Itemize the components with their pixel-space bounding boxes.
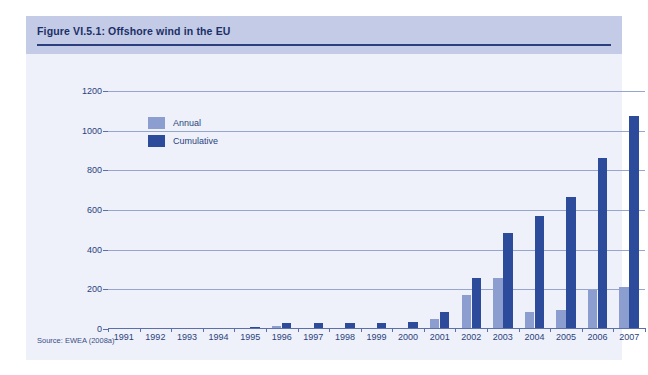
x-axis-tick-mark — [266, 328, 267, 332]
legend-swatch-annual — [148, 117, 165, 129]
y-axis-tick-label: 1200 — [82, 86, 102, 96]
x-axis-tick-mark — [455, 328, 456, 332]
figure-title: Figure VI.5.1: Offshore wind in the EU — [37, 25, 231, 37]
x-axis-tick-label-1993: 1993 — [177, 332, 197, 342]
bar-cumulative-2001 — [440, 312, 450, 329]
x-axis-tick-label-2003: 2003 — [493, 332, 513, 342]
bar-group — [582, 91, 614, 329]
x-axis-tick-label-2002: 2002 — [461, 332, 481, 342]
x-axis-tick-label-1994: 1994 — [209, 332, 229, 342]
figure-container: Figure VI.5.1: Offshore wind in the EU 0… — [26, 16, 622, 360]
bar-group — [613, 91, 645, 329]
x-axis-tick-mark — [613, 328, 614, 332]
bar-cumulative-2002 — [472, 278, 482, 329]
figure-header: Figure VI.5.1: Offshore wind in the EU — [26, 16, 622, 54]
legend-item-cumulative: Cumulative — [148, 133, 218, 148]
y-axis-tick-label: 0 — [97, 324, 102, 334]
bar-group — [108, 91, 140, 329]
bar-group — [550, 91, 582, 329]
y-axis-tick-label: 600 — [87, 205, 102, 215]
bar-cumulative-2003 — [503, 233, 513, 329]
bar-annual-2006 — [588, 290, 598, 329]
bar-group — [266, 91, 298, 329]
bar-cumulative-2007 — [629, 116, 639, 329]
x-axis-tick-mark — [203, 328, 204, 332]
x-axis-tick-label-2000: 2000 — [398, 332, 418, 342]
x-axis-tick-mark — [329, 328, 330, 332]
y-axis-tick-label: 800 — [87, 165, 102, 175]
bar-annual-2005 — [556, 310, 566, 329]
x-axis-tick-label-2006: 2006 — [588, 332, 608, 342]
bar-group — [424, 91, 456, 329]
bar-group — [392, 91, 424, 329]
bar-annual-2004 — [525, 312, 535, 329]
x-axis-tick-mark — [171, 328, 172, 332]
legend-item-annual: Annual — [148, 115, 218, 130]
x-axis-tick-label-1999: 1999 — [366, 332, 386, 342]
bar-group — [234, 91, 266, 329]
bar-group — [455, 91, 487, 329]
x-axis-tick-mark — [361, 328, 362, 332]
x-axis-tick-label-2005: 2005 — [556, 332, 576, 342]
x-axis-tick-mark — [392, 328, 393, 332]
x-axis-tick-label-2001: 2001 — [430, 332, 450, 342]
x-axis-tick-label-2004: 2004 — [524, 332, 544, 342]
x-axis-tick-label-1998: 1998 — [335, 332, 355, 342]
bar-group — [298, 91, 330, 329]
x-axis-tick-mark — [550, 328, 551, 332]
x-axis-tick-mark — [424, 328, 425, 332]
x-axis-tick-label-1992: 1992 — [145, 332, 165, 342]
x-axis-tick-mark — [298, 328, 299, 332]
x-axis-labels: 1991199219931994199519961997199819992000… — [108, 332, 645, 348]
y-axis-tick-label: 400 — [87, 245, 102, 255]
bar-annual-2002 — [462, 295, 472, 329]
bar-group — [361, 91, 393, 329]
x-axis-tick-label-2007: 2007 — [619, 332, 639, 342]
chart-legend: AnnualCumulative — [148, 115, 218, 151]
x-axis-line — [108, 328, 645, 330]
bar-group — [519, 91, 551, 329]
x-axis-tick-label-1995: 1995 — [240, 332, 260, 342]
legend-label-annual: Annual — [173, 118, 201, 128]
x-axis-tick-mark — [519, 328, 520, 332]
bar-annual-2003 — [493, 278, 503, 329]
bar-cumulative-2006 — [598, 158, 608, 329]
bar-group — [329, 91, 361, 329]
x-axis-tick-mark — [234, 328, 235, 332]
y-axis-tick-label: 1000 — [82, 126, 102, 136]
x-axis-tick-mark — [645, 328, 646, 332]
bar-cumulative-2004 — [535, 216, 545, 329]
bar-group — [487, 91, 519, 329]
bar-annual-2007 — [619, 287, 629, 329]
x-axis-tick-label-1996: 1996 — [272, 332, 292, 342]
x-axis-tick-mark — [140, 328, 141, 332]
legend-label-cumulative: Cumulative — [173, 136, 218, 146]
x-axis-tick-mark — [487, 328, 488, 332]
y-axis-tick-label: 200 — [87, 284, 102, 294]
x-axis-tick-label-1991: 1991 — [114, 332, 134, 342]
x-axis-tick-mark — [108, 328, 109, 332]
bar-cumulative-2005 — [566, 197, 576, 329]
source-note: Source: EWEA (2008a) — [37, 336, 115, 345]
x-axis-tick-mark — [582, 328, 583, 332]
x-axis-tick-label-1997: 1997 — [303, 332, 323, 342]
legend-swatch-cumulative — [148, 135, 165, 147]
header-divider — [37, 44, 611, 46]
